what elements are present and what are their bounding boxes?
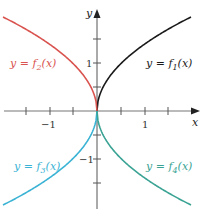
label-f4: y = f4(x) <box>145 160 192 175</box>
x-tick-label-neg1: −1 <box>41 119 56 130</box>
x-axis-arrow-icon <box>191 108 200 115</box>
label-f3: y = f3(x) <box>13 160 60 175</box>
y-axis-label: y <box>85 7 93 20</box>
x-tick-label-1: 1 <box>142 119 148 130</box>
chart-canvas: −1 1 1 −1 y x y = f2(x) y = f1(x) y = f3… <box>0 0 201 213</box>
label-f2: y = f2(x) <box>9 57 56 72</box>
label-f1: y = f1(x) <box>145 57 192 72</box>
y-tick-label-1: 1 <box>86 58 92 69</box>
x-axis-label: x <box>192 116 199 129</box>
y-axis-arrow-icon <box>94 9 101 18</box>
y-tick-label-neg1: −1 <box>79 154 94 165</box>
